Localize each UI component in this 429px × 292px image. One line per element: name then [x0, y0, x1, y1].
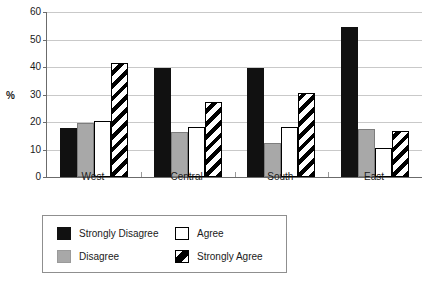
bar — [247, 68, 264, 177]
bar — [188, 127, 205, 177]
y-tick-label: 50 — [30, 35, 41, 45]
bar-chart: % 0102030405060 WestCentralSouthEast Str… — [0, 0, 429, 292]
bar-group — [235, 12, 329, 177]
bar — [111, 63, 128, 177]
y-axis-label: % — [6, 91, 15, 101]
legend-swatch-icon — [175, 227, 189, 240]
y-tick-label: 20 — [30, 117, 41, 127]
bar — [281, 127, 298, 177]
bar — [205, 102, 222, 177]
y-tick-label: 40 — [30, 62, 41, 72]
legend-item[interactable]: Disagree — [57, 250, 119, 263]
legend-label: Agree — [197, 228, 224, 239]
bar-group — [47, 12, 141, 177]
x-tick-label: East — [327, 172, 421, 182]
bar — [154, 68, 171, 177]
legend-label: Strongly Agree — [197, 251, 263, 262]
y-tick-label: 60 — [30, 7, 41, 17]
y-tick-label: 30 — [30, 90, 41, 100]
y-tick-label: 0 — [35, 172, 41, 182]
plot-area: 0102030405060 — [46, 12, 422, 178]
legend-item[interactable]: Agree — [175, 227, 224, 240]
legend-swatch-icon — [175, 250, 189, 263]
bar — [60, 128, 77, 178]
legend-label: Disagree — [79, 251, 119, 262]
legend-swatch-icon — [57, 227, 71, 240]
bar — [298, 93, 315, 177]
legend-swatch-icon — [57, 250, 71, 263]
legend-label: Strongly Disagree — [79, 228, 158, 239]
legend-item[interactable]: Strongly Disagree — [57, 227, 158, 240]
legend: Strongly DisagreeAgreeDisagreeStrongly A… — [42, 215, 287, 273]
x-tick-label: South — [234, 172, 328, 182]
bar — [94, 121, 111, 177]
x-tick-label: West — [46, 172, 140, 182]
legend-item[interactable]: Strongly Agree — [175, 250, 263, 263]
bar-group — [141, 12, 235, 177]
bar — [77, 123, 94, 177]
y-tick-label: 10 — [30, 145, 41, 155]
bar — [392, 131, 409, 177]
bar — [358, 129, 375, 177]
bar — [341, 27, 358, 177]
x-tick-label: Central — [140, 172, 234, 182]
bar-group — [328, 12, 422, 177]
